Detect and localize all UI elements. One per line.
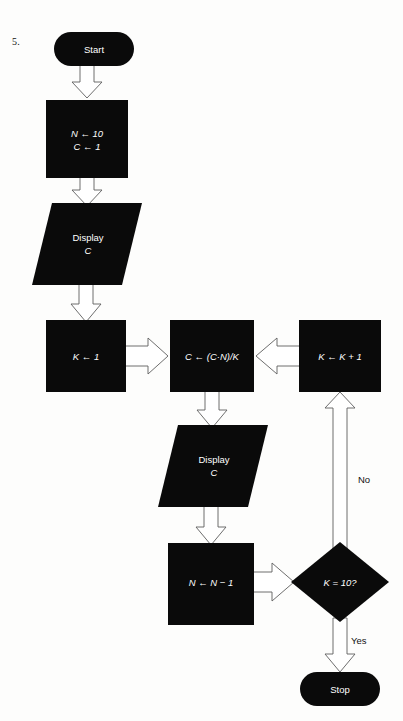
- node-k-incr-label: K ← K + 1: [318, 351, 362, 362]
- edge-kinit-to-compute: [120, 338, 168, 374]
- node-display2-label-line1: Display: [198, 454, 229, 465]
- block-arrow-right: [248, 563, 294, 601]
- block-arrow-right: [120, 338, 168, 374]
- block-arrow-left: [256, 338, 305, 374]
- node-compute[interactable]: C ← (C·N)/K: [170, 320, 254, 392]
- node-k-init-label: K ← 1: [73, 351, 99, 362]
- node-start-label: Start: [84, 44, 104, 55]
- process-shape: [46, 100, 128, 178]
- node-display2[interactable]: Display C: [158, 425, 268, 507]
- edge-test-to-stop: Yes: [325, 618, 367, 672]
- flowchart-page: 5.: [0, 0, 403, 721]
- flowchart-canvas: No Yes Start N ← 10 C ← 1 Display C K: [0, 0, 403, 721]
- node-display1-label-line1: Display: [72, 232, 103, 243]
- node-k-incr[interactable]: K ← K + 1: [299, 320, 381, 392]
- node-k-init[interactable]: K ← 1: [46, 320, 126, 392]
- node-dec-n[interactable]: N ← N − 1: [168, 543, 254, 625]
- edge-kincr-to-compute: [256, 338, 305, 374]
- node-init-label-line2: C ← 1: [74, 141, 101, 152]
- block-arrow-down: [197, 388, 227, 428]
- node-test[interactable]: K = 10?: [291, 542, 389, 622]
- edge-label-yes: Yes: [351, 635, 367, 646]
- edge-decn-to-test: [248, 563, 294, 601]
- edge-test-to-kincr: No: [325, 392, 370, 570]
- node-display2-label-line2: C: [211, 467, 218, 478]
- node-stop[interactable]: Stop: [300, 672, 380, 706]
- node-start[interactable]: Start: [54, 32, 134, 66]
- node-init-label-line1: N ← 10: [71, 128, 104, 139]
- edge-label-no: No: [358, 474, 370, 485]
- node-dec-n-label: N ← N − 1: [189, 577, 234, 588]
- node-stop-label: Stop: [330, 684, 350, 695]
- block-arrow-down: [72, 62, 102, 98]
- edge-start-to-init: [72, 62, 102, 98]
- node-display1[interactable]: Display C: [32, 203, 142, 285]
- node-compute-label: C ← (C·N)/K: [185, 351, 239, 362]
- edge-compute-to-display2: [197, 388, 227, 428]
- node-test-label: K = 10?: [323, 577, 357, 588]
- node-display1-label-line2: C: [85, 245, 92, 256]
- node-init[interactable]: N ← 10 C ← 1: [46, 100, 128, 178]
